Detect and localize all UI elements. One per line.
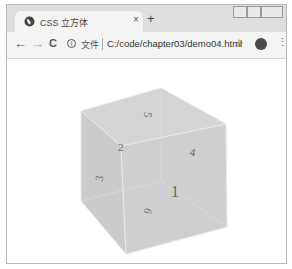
page-content: 1 2 3 4 5 6	[7, 59, 286, 264]
tab-close-button[interactable]: ×	[133, 14, 139, 25]
cube-face-label-2: 2	[118, 141, 124, 153]
cube-face-label-1: 1	[171, 183, 179, 200]
info-icon[interactable]: i	[67, 39, 76, 48]
minimize-button[interactable]	[233, 6, 247, 18]
tab-title: CSS 立方体	[40, 16, 88, 29]
tab-active[interactable]: CSS 立方体 ×	[15, 11, 143, 32]
title-bar: CSS 立方体 × +	[7, 5, 286, 32]
address-bar[interactable]: i 文件 C:/code/chapter03/demo04.html	[65, 35, 243, 54]
forward-button[interactable]: →	[31, 37, 44, 50]
globe-icon	[24, 16, 35, 27]
menu-kebab-icon[interactable]: ⋮	[277, 37, 288, 48]
toolbar: ← → C i 文件 C:/code/chapter03/demo04.html…	[7, 32, 286, 59]
bookmark-star-icon[interactable]: ☆	[234, 37, 244, 50]
reload-button[interactable]: C	[49, 38, 57, 49]
new-tab-button[interactable]: +	[147, 12, 155, 25]
close-window-button[interactable]	[261, 6, 283, 18]
browser-window: CSS 立方体 × + ← → C i 文件 C:/code/chapter03…	[6, 4, 287, 264]
separator	[102, 38, 103, 50]
url-text[interactable]: C:/code/chapter03/demo04.html	[107, 38, 242, 49]
maximize-button[interactable]	[247, 6, 261, 18]
security-label: 文件	[81, 38, 99, 51]
back-button[interactable]: ←	[14, 37, 27, 50]
css-cube: 1 2 3 4 5 6	[7, 59, 288, 264]
profile-avatar-icon[interactable]	[255, 38, 267, 50]
